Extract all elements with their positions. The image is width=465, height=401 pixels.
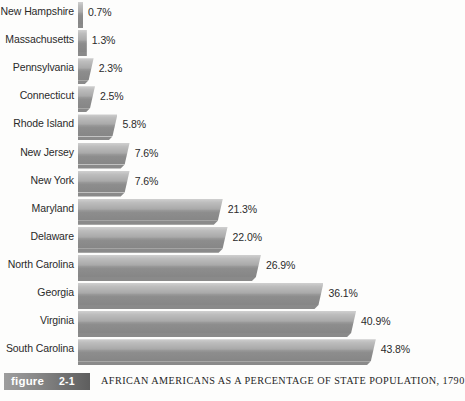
- bar-bevel-shadow: [78, 333, 356, 337]
- bar-row: New York7.6%: [0, 171, 422, 197]
- bar-shape: [78, 227, 228, 253]
- bar-value-label: 2.5%: [100, 90, 124, 102]
- bar-row: New Hampshire0.7%: [0, 2, 422, 28]
- bar-value-label: 22.0%: [233, 231, 262, 243]
- bar-row: New Jersey7.6%: [0, 143, 422, 169]
- bar-face: [78, 143, 130, 165]
- bar-shape: [78, 114, 117, 140]
- bar-category-label: New Hampshire: [0, 5, 74, 17]
- bar-value-label: 26.9%: [266, 259, 295, 271]
- figure-caption-bar: figure 2-1 AFRICAN AMERICANS AS A PERCEN…: [0, 373, 422, 393]
- bar-category-label: North Carolina: [0, 258, 74, 270]
- bar-row: Virginia40.9%: [0, 311, 422, 337]
- bar-row: Georgia36.1%: [0, 283, 422, 309]
- bar-face: [78, 114, 117, 136]
- bar-category-label: New Jersey: [0, 146, 74, 158]
- bar-bevel-shadow: [78, 24, 83, 28]
- bar-value-label: 7.6%: [135, 175, 159, 187]
- bar-face: [78, 311, 356, 333]
- bar-face: [78, 339, 376, 361]
- bar-value-label: 43.8%: [381, 343, 410, 355]
- bar-shape: [78, 30, 87, 56]
- bar-category-label: South Carolina: [0, 342, 74, 354]
- bar-bevel-shadow: [78, 221, 223, 225]
- bar-row: Delaware22.0%: [0, 227, 422, 253]
- bar-bevel-shadow: [78, 361, 376, 365]
- bar-category-label: Delaware: [0, 230, 74, 242]
- figure-caption-text: AFRICAN AMERICANS AS A PERCENTAGE OF STA…: [101, 375, 465, 386]
- figure-tag-number: 2-1: [59, 373, 75, 390]
- bar-row: South Carolina43.8%: [0, 339, 422, 365]
- bar-category-label: Georgia: [0, 286, 74, 298]
- figure-number-tag: figure 2-1: [4, 373, 90, 390]
- bar-shape: [78, 86, 95, 112]
- bar-value-label: 5.8%: [122, 118, 146, 130]
- bar-shape: [78, 2, 83, 28]
- bar-value-label: 7.6%: [135, 147, 159, 159]
- bar-chart-plot-area: New Hampshire0.7%Massachusetts1.3%Pennsy…: [0, 0, 422, 368]
- bar-bevel-shadow: [78, 193, 130, 197]
- bar-face: [78, 30, 87, 52]
- bar-face: [78, 2, 83, 24]
- bar-face: [78, 86, 95, 108]
- bar-bevel-shadow: [78, 52, 87, 56]
- bar-bevel-shadow: [78, 249, 228, 253]
- bar-shape: [78, 255, 261, 281]
- bar-shape: [78, 311, 356, 337]
- bar-category-label: Rhode Island: [0, 117, 74, 129]
- bar-face: [78, 283, 323, 305]
- bar-value-label: 1.3%: [92, 34, 116, 46]
- bar-category-label: Connecticut: [0, 89, 74, 101]
- bar-face: [78, 171, 130, 193]
- bar-shape: [78, 283, 323, 309]
- bar-face: [78, 199, 223, 221]
- bar-shape: [78, 199, 223, 225]
- bar-value-label: 0.7%: [88, 6, 112, 18]
- bar-category-label: Virginia: [0, 314, 74, 326]
- bar-value-label: 21.3%: [228, 203, 257, 215]
- bar-category-label: Maryland: [0, 202, 74, 214]
- bar-row: Maryland21.3%: [0, 199, 422, 225]
- bar-bevel-shadow: [78, 165, 130, 169]
- figure-tag-word: figure: [11, 373, 44, 390]
- bar-shape: [78, 339, 376, 365]
- bar-value-label: 2.3%: [99, 62, 123, 74]
- bar-category-label: Massachusetts: [0, 33, 74, 45]
- bar-face: [78, 227, 228, 249]
- bar-category-label: Pennsylvania: [0, 61, 74, 73]
- bar-face: [78, 58, 94, 80]
- bar-shape: [78, 143, 130, 169]
- bar-bevel-shadow: [78, 136, 117, 140]
- bar-row: Pennsylvania2.3%: [0, 58, 422, 84]
- bar-category-label: New York: [0, 174, 74, 186]
- bar-row: Connecticut2.5%: [0, 86, 422, 112]
- bar-shape: [78, 171, 130, 197]
- bar-bevel-shadow: [78, 108, 95, 112]
- bar-shape: [78, 58, 94, 84]
- bar-value-label: 40.9%: [361, 315, 390, 327]
- bar-bevel-shadow: [78, 80, 94, 84]
- bar-row: Massachusetts1.3%: [0, 30, 422, 56]
- bar-row: Rhode Island5.8%: [0, 114, 422, 140]
- bar-bevel-shadow: [78, 305, 323, 309]
- bar-value-label: 36.1%: [328, 287, 357, 299]
- bar-face: [78, 255, 261, 277]
- bar-bevel-shadow: [78, 277, 261, 281]
- bar-row: North Carolina26.9%: [0, 255, 422, 281]
